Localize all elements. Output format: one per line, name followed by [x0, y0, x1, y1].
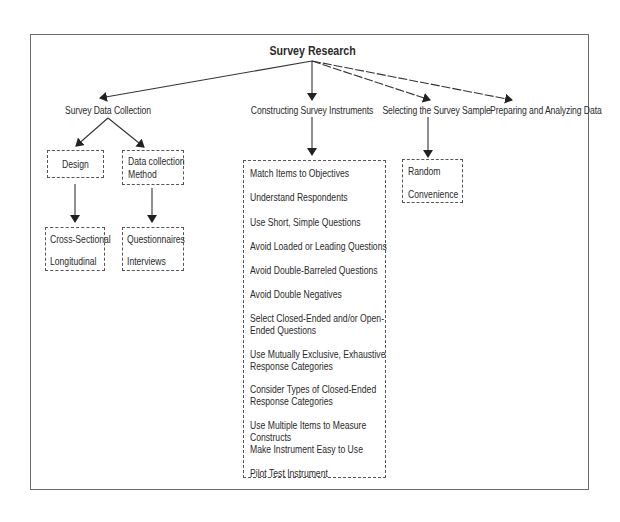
guideline-item: Match Items to Objectives [250, 167, 388, 179]
guideline-item: Understand Respondents [250, 191, 388, 203]
branch-preparing-analyzing-data: Preparing and Analyzing Data [490, 104, 582, 116]
instrument-guidelines-box: Match Items to Objectives Understand Res… [243, 160, 386, 478]
sample-types-box: Random Convenience [402, 159, 463, 203]
branch-constructing-survey-instruments: Constructing Survey Instruments [246, 104, 377, 116]
guideline-item: Use Multiple Items to Measure Constructs [250, 419, 388, 443]
data-collection-method-box: Data collection Method [122, 150, 184, 185]
design-label: Design [62, 158, 89, 170]
convenience-label: Convenience [408, 188, 458, 200]
guideline-item: Use Short, Simple Questions [250, 216, 388, 228]
design-types-box: Cross-Sectional Longitudinal [45, 227, 105, 271]
data-collection-label-line1: Data collection [128, 155, 184, 167]
questionnaires-label: Questionnaires [127, 233, 185, 245]
cross-sectional-label: Cross-Sectional [50, 233, 111, 245]
collection-methods-box: Questionnaires Interviews [122, 227, 184, 271]
guideline-item: Use Mutually Exclusive, Exhaustive Respo… [250, 348, 388, 372]
design-box: Design [47, 150, 104, 178]
guideline-item: Pilot Test Instrument [250, 467, 388, 479]
guideline-item: Consider Types of Closed-Ended Response … [250, 383, 388, 407]
guideline-item: Avoid Loaded or Leading Questions [250, 240, 388, 252]
root-title: Survey Research [270, 44, 355, 58]
longitudinal-label: Longitudinal [50, 255, 96, 267]
data-collection-label-line2: Method [128, 168, 157, 180]
random-label: Random [408, 165, 441, 177]
guideline-item: Select Closed-Ended and/or Open-Ended Qu… [250, 312, 388, 336]
branch-selecting-survey-sample: Selecting the Survey Sample [382, 104, 477, 116]
guideline-item: Make Instrument Easy to Use [250, 443, 388, 455]
guideline-item: Avoid Double-Barreled Questions [250, 264, 388, 276]
guideline-item: Avoid Double Negatives [250, 288, 388, 300]
interviews-label: Interviews [127, 255, 166, 267]
branch-survey-data-collection: Survey Data Collection [59, 104, 157, 116]
